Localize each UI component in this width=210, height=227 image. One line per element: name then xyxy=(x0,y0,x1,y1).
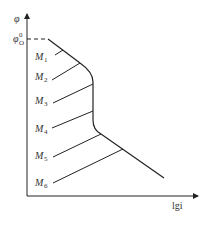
x-axis-label: lgi xyxy=(172,200,183,211)
label-m1: M 1 xyxy=(34,51,48,64)
svg-text:M: M xyxy=(34,71,44,82)
label-m6: M 6 xyxy=(34,177,48,190)
svg-text:1: 1 xyxy=(44,56,48,64)
label-m3: M 3 xyxy=(34,95,48,108)
label-m4: M 4 xyxy=(34,123,48,136)
svg-text:5: 5 xyxy=(44,155,48,163)
svg-text:M: M xyxy=(34,95,44,106)
label-m5: M 5 xyxy=(34,150,48,163)
y-axis-label: φ xyxy=(14,13,20,24)
label-m2: M 2 xyxy=(34,71,48,84)
line-m5 xyxy=(53,134,101,157)
line-m2 xyxy=(52,63,80,80)
svg-text:M: M xyxy=(34,123,44,134)
svg-text:O: O xyxy=(19,39,24,47)
svg-text:M: M xyxy=(34,177,44,188)
line-m1 xyxy=(55,50,63,55)
line-m6 xyxy=(53,149,123,183)
polarization-diagram: φ φ 0 O M 1 M 2 M 3 M 4 M 5 M 6 lgi xyxy=(0,0,210,227)
line-m3 xyxy=(53,84,93,103)
svg-text:M: M xyxy=(34,150,44,161)
svg-text:6: 6 xyxy=(44,182,48,190)
svg-text:2: 2 xyxy=(44,76,48,84)
svg-text:M: M xyxy=(34,51,44,62)
svg-text:3: 3 xyxy=(44,100,48,108)
svg-text:4: 4 xyxy=(44,128,48,136)
svg-text:0: 0 xyxy=(19,31,23,39)
line-m4 xyxy=(52,111,93,128)
origin-level-label: φ 0 O xyxy=(13,31,24,47)
